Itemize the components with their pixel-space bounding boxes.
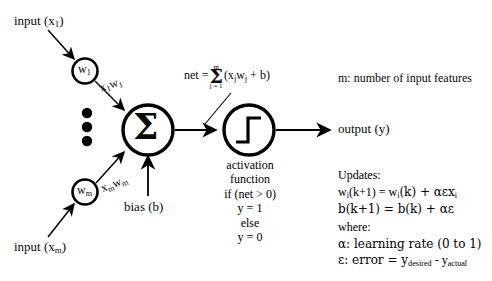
perceptron-diagram-page: input (x1) input (xm) w1 wm x1w1 xmwm Σ … (0, 0, 492, 281)
output-label: output (y) (338, 122, 390, 137)
alpha-definition: α: learning rate (0 to 1) (338, 237, 482, 251)
bias-update-equation: b(k+1) = b(k) + αε (338, 202, 457, 216)
summation-operator: m Σ j = 1 (209, 64, 222, 90)
ellipsis-dot (82, 122, 92, 132)
activation-caption-line-2: function (206, 172, 294, 186)
activation-else: else (206, 216, 294, 230)
input-1-label: input (x1) (14, 14, 64, 29)
where-block: where: α: learning rate (0 to 1) ε: erro… (338, 220, 482, 270)
activation-caption: activation function if (net > 0) y = 1 e… (206, 158, 294, 244)
input-1-arrow (48, 30, 74, 59)
weight-node-m-label: wm (77, 184, 92, 197)
ellipsis-dot (82, 136, 92, 146)
ellipsis-dot (82, 108, 92, 118)
activation-output-true: y = 1 (206, 201, 294, 215)
epsilon-definition: ε: error = ydesired - yactual (338, 253, 482, 268)
net-equation: net = m Σ j = 1 (xjwj + b) (184, 63, 270, 89)
activation-caption-line-1: activation (206, 158, 294, 172)
updates-heading: Updates: (338, 168, 457, 183)
activation-condition: if (net > 0) (206, 187, 294, 201)
input-m-label: input (xm) (14, 240, 66, 255)
bias-label: bias (b) (124, 200, 163, 215)
weight-update-equation: wi(k+1) = wi(k) + αεxi (338, 185, 457, 200)
input-m-arrow (48, 204, 74, 237)
where-heading: where: (338, 220, 482, 235)
updates-block: Updates: wi(k+1) = wi(k) + αεxi b(k+1) =… (338, 168, 457, 218)
summation-symbol: Σ (133, 108, 158, 144)
weight-node-1-label: w1 (78, 63, 91, 76)
activation-output-false: y = 0 (206, 230, 294, 244)
m-definition: m: number of input features (338, 72, 472, 85)
